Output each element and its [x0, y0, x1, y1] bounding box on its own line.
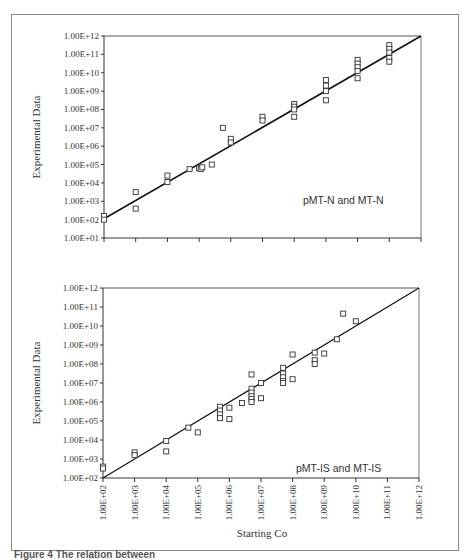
- data-point: [217, 416, 222, 421]
- data-point: [186, 425, 191, 430]
- x-axis-title: Starting Co: [237, 527, 288, 539]
- data-point: [102, 217, 107, 222]
- data-point: [281, 365, 286, 370]
- data-point: [165, 179, 170, 184]
- data-point: [220, 125, 225, 130]
- data-point: [323, 78, 328, 83]
- y-tick-label: 1.00E+06: [63, 397, 99, 407]
- data-point: [133, 206, 138, 211]
- data-point: [209, 162, 214, 167]
- data-point: [260, 118, 265, 123]
- y-tick-label: 1.00E+04: [64, 178, 100, 188]
- data-point: [249, 372, 254, 377]
- y-tick-label: 1.00E+07: [64, 123, 100, 133]
- data-point: [240, 400, 245, 405]
- y-tick-label: 1.00E+01: [64, 233, 99, 243]
- data-point: [200, 165, 205, 170]
- data-point: [227, 405, 232, 410]
- data-point: [290, 377, 295, 382]
- data-point: [259, 381, 264, 386]
- data-point: [312, 350, 317, 355]
- data-point: [281, 381, 286, 386]
- data-point: [164, 438, 169, 443]
- y-tick-label: 1.00E+11: [64, 49, 99, 59]
- data-point: [195, 430, 200, 435]
- data-point: [334, 337, 339, 342]
- data-point: [165, 173, 170, 178]
- data-point: [132, 453, 137, 458]
- y-tick-label: 1.00E+05: [64, 160, 100, 170]
- data-point: [290, 352, 295, 357]
- data-point: [101, 466, 106, 471]
- x-tick-label: 1.00E+04: [161, 485, 171, 521]
- x-tick-label: 1.00E+08: [288, 485, 298, 521]
- data-point: [249, 400, 254, 405]
- data-point: [187, 167, 192, 172]
- figure-plots: 1.00E+011.00E+021.00E+031.00E+041.00E+05…: [0, 0, 468, 560]
- data-point: [387, 50, 392, 55]
- y-tick-label: 1.00E+05: [63, 416, 99, 426]
- data-point: [353, 319, 358, 324]
- data-point: [323, 89, 328, 94]
- data-point: [227, 417, 232, 422]
- data-point: [355, 68, 360, 73]
- data-point: [292, 114, 297, 119]
- x-tick-label: 1.00E+06: [224, 485, 234, 521]
- fit-line: [104, 36, 421, 219]
- y-tick-label: 1.00E+07: [63, 378, 99, 388]
- y-tick-label: 1.00E+04: [63, 435, 99, 445]
- data-point: [341, 311, 346, 316]
- y-axis-title: Experimental Data: [30, 96, 42, 179]
- y-tick-label: 1.00E+03: [64, 196, 100, 206]
- y-tick-label: 1.00E+02: [64, 215, 99, 225]
- y-axis-title: Experimental Data: [30, 342, 42, 425]
- data-point: [164, 449, 169, 454]
- y-tick-label: 1.00E+12: [63, 283, 98, 293]
- y-tick-label: 1.00E+08: [64, 104, 100, 114]
- data-point: [322, 351, 327, 356]
- y-tick-label: 1.00E+02: [63, 473, 98, 483]
- data-point: [323, 98, 328, 103]
- data-point: [312, 362, 317, 367]
- y-tick-label: 1.00E+09: [64, 86, 100, 96]
- x-tick-label: 1.00E+02: [98, 485, 108, 520]
- y-tick-label: 1.00E+10: [63, 321, 99, 331]
- x-tick-label: 1.00E+12: [414, 485, 424, 520]
- x-tick-label: 1.00E+09: [319, 485, 329, 521]
- x-tick-label: 1.00E+05: [193, 485, 203, 521]
- y-tick-label: 1.00E+06: [64, 141, 100, 151]
- y-tick-label: 1.00E+10: [64, 68, 100, 78]
- y-tick-label: 1.00E+08: [63, 359, 99, 369]
- chart-2: 1.00E+021.00E+031.00E+041.00E+051.00E+06…: [30, 283, 424, 520]
- data-point: [228, 140, 233, 145]
- y-tick-label: 1.00E+03: [63, 454, 99, 464]
- x-tick-label: 1.00E+03: [130, 485, 140, 521]
- series-annotation: pMT-N and MT-N: [303, 194, 384, 206]
- chart-1: 1.00E+011.00E+021.00E+031.00E+041.00E+05…: [30, 31, 421, 243]
- data-point: [292, 107, 297, 112]
- x-tick-label: 1.00E+07: [256, 485, 266, 521]
- data-point: [323, 83, 328, 88]
- figure-caption: Figure 4 The relation between: [14, 549, 155, 560]
- y-tick-label: 1.00E+09: [63, 340, 99, 350]
- y-tick-label: 1.00E+11: [63, 302, 98, 312]
- data-point: [133, 190, 138, 195]
- data-point: [387, 59, 392, 64]
- x-tick-label: 1.00E+10: [351, 485, 361, 521]
- data-point: [355, 76, 360, 81]
- y-tick-label: 1.00E+12: [64, 31, 99, 41]
- series-annotation: pMT-IS and MT-IS: [296, 462, 381, 474]
- data-point: [259, 396, 264, 401]
- x-tick-label: 1.00E+11: [382, 485, 392, 520]
